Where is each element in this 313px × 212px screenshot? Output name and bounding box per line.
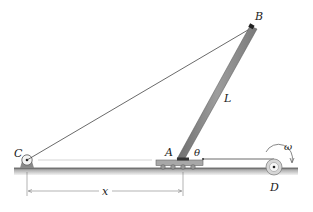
label-a: A: [164, 146, 173, 159]
mechanism-diagram: C B L A θ ω D x: [0, 0, 313, 212]
cart-a: [156, 158, 203, 170]
label-x: x: [102, 185, 109, 198]
bar-ab: [177, 23, 257, 160]
label-l: L: [223, 92, 231, 105]
label-d: D: [269, 181, 279, 194]
label-b: B: [254, 10, 263, 23]
label-c: C: [14, 147, 23, 160]
label-omega: ω: [284, 141, 292, 152]
ground: [14, 168, 298, 175]
label-theta: θ: [194, 147, 200, 158]
